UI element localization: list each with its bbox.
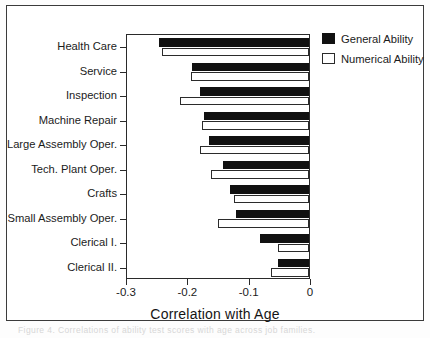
bar-numerical-ability [278, 244, 309, 253]
x-axis-tick [310, 279, 311, 285]
x-axis-tick-labels: -0.3-0.2-0.10 [96, 286, 340, 302]
bar-numerical-ability [234, 195, 309, 204]
y-axis-category-label: Machine Repair [0, 114, 119, 126]
y-axis-tick [120, 219, 127, 220]
bar-numerical-ability [180, 97, 309, 106]
x-axis-tick [187, 279, 188, 285]
bar-general-ability [200, 87, 309, 96]
y-axis-category-label: Tech. Plant Oper. [0, 163, 119, 175]
bar-general-ability [209, 136, 309, 145]
y-axis-category-label: Crafts [0, 187, 119, 199]
plot-area [126, 34, 310, 279]
bar-numerical-ability [211, 170, 309, 179]
y-axis-category-label: Health Care [0, 40, 119, 52]
y-axis-category-label: Inspection [0, 89, 119, 101]
y-axis-tick [120, 194, 127, 195]
bar-general-ability [192, 63, 309, 72]
bar-general-ability [230, 185, 309, 194]
bar-numerical-ability [162, 48, 309, 57]
y-axis-tick [120, 72, 127, 73]
bar-general-ability [260, 234, 309, 243]
x-axis-title: Correlation with Age [0, 306, 430, 322]
y-axis-tick [120, 121, 127, 122]
x-axis-tick-label: 0 [307, 286, 313, 298]
legend-item-general: General Ability [322, 30, 426, 47]
x-axis-tick-label: -0.3 [116, 286, 136, 298]
y-axis-category-label: Clerical I. [0, 236, 119, 248]
bar-numerical-ability [271, 268, 309, 277]
y-axis-tick [120, 268, 127, 269]
bar-numerical-ability [200, 146, 309, 155]
legend-swatch-numerical-ability-icon [322, 53, 335, 64]
bar-general-ability [159, 38, 309, 47]
y-axis-tick [120, 47, 127, 48]
y-axis-tick [120, 170, 127, 171]
y-axis-tick [120, 96, 127, 97]
y-axis-category-label: Clerical II. [0, 261, 119, 273]
legend-swatch-general-ability-icon [322, 33, 335, 44]
legend-label-numerical: Numerical Ability [341, 53, 424, 65]
legend-item-numerical: Numerical Ability [322, 50, 426, 67]
y-axis-category-label: Large Assembly Oper. [0, 138, 119, 150]
x-axis-tick [126, 279, 127, 285]
y-axis-tick [120, 145, 127, 146]
x-axis-tick [249, 279, 250, 285]
scan-artifact-caption: Figure 4. Correlations of ability test s… [18, 325, 418, 337]
chart-legend: General Ability Numerical Ability [322, 30, 426, 70]
y-axis-tick [120, 243, 127, 244]
bar-general-ability [204, 112, 309, 121]
legend-label-general: General Ability [341, 33, 413, 45]
bar-general-ability [223, 161, 309, 170]
figure-container: Health CareServiceInspectionMachine Repa… [0, 0, 430, 338]
bar-general-ability [236, 210, 309, 219]
y-axis-category-label: Service [0, 65, 119, 77]
bar-numerical-ability [202, 121, 309, 130]
x-axis-tick-label: -0.2 [177, 286, 197, 298]
y-axis-labels: Health CareServiceInspectionMachine Repa… [0, 34, 119, 279]
y-axis-category-label: Small Assembly Oper. [0, 212, 119, 224]
x-axis-tick-label: -0.1 [239, 286, 259, 298]
bar-general-ability [278, 259, 309, 268]
bar-numerical-ability [191, 72, 309, 81]
bar-numerical-ability [218, 219, 309, 228]
